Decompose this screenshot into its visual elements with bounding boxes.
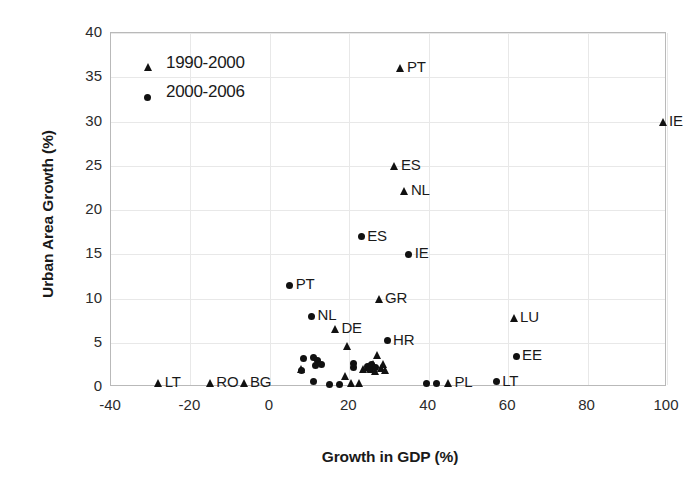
data-point-triangle bbox=[375, 295, 383, 303]
data-point-circle bbox=[336, 381, 343, 388]
x-axis-title: Growth in GDP (%) bbox=[110, 448, 670, 466]
data-point-label: GR bbox=[385, 289, 407, 306]
data-point-circle bbox=[300, 355, 307, 362]
x-tick-label: -20 bbox=[159, 396, 219, 413]
x-tick-label: 60 bbox=[477, 396, 537, 413]
data-point-circle bbox=[326, 381, 333, 388]
data-point-label: IE bbox=[415, 244, 429, 261]
data-point-label: LU bbox=[520, 308, 539, 325]
data-point-circle bbox=[308, 313, 315, 320]
data-point-triangle bbox=[510, 314, 518, 322]
data-point-label: IE bbox=[669, 112, 683, 129]
data-point-label: NL bbox=[318, 306, 337, 323]
data-point-label: NL bbox=[411, 181, 430, 198]
data-point-label: BG bbox=[250, 373, 271, 390]
data-point-circle bbox=[310, 378, 317, 385]
data-point-label: LT bbox=[165, 373, 181, 390]
data-point-triangle bbox=[206, 379, 214, 387]
data-point-label: ES bbox=[401, 156, 421, 173]
data-point-triangle bbox=[240, 379, 248, 387]
data-point-label: EE bbox=[522, 346, 542, 363]
data-point-label: PT bbox=[296, 275, 315, 292]
data-point-triangle bbox=[390, 162, 398, 170]
data-point-triangle bbox=[347, 379, 355, 387]
x-tick-label: 80 bbox=[557, 396, 617, 413]
data-point-circle bbox=[493, 378, 500, 385]
y-tick-label: 20 bbox=[58, 200, 102, 217]
data-point-triangle bbox=[343, 342, 351, 350]
data-point-circle bbox=[423, 380, 430, 387]
gridline-horizontal bbox=[111, 254, 665, 255]
y-tick-label: 30 bbox=[58, 112, 102, 129]
gridline-horizontal bbox=[111, 210, 665, 211]
data-point-triangle bbox=[373, 351, 381, 359]
data-point-triangle bbox=[381, 366, 389, 374]
gridline-vertical bbox=[508, 33, 509, 385]
y-tick-label: 25 bbox=[58, 156, 102, 173]
y-axis-title: Urban Area Growth (%) bbox=[39, 49, 57, 379]
gridline-vertical bbox=[429, 33, 430, 385]
data-point-circle bbox=[298, 367, 305, 374]
legend-label: 1990-2000 bbox=[166, 53, 245, 73]
gridline-horizontal bbox=[111, 33, 665, 34]
legend-marker-circle-icon bbox=[144, 94, 151, 101]
x-tick-label: 0 bbox=[239, 396, 299, 413]
x-tick-label: 20 bbox=[318, 396, 378, 413]
data-point-triangle bbox=[659, 118, 667, 126]
gridline-horizontal bbox=[111, 122, 665, 123]
data-point-circle bbox=[350, 364, 357, 371]
data-point-triangle bbox=[444, 379, 452, 387]
data-point-triangle bbox=[154, 379, 162, 387]
legend-label: 2000-2006 bbox=[166, 82, 245, 102]
y-tick-label: 0 bbox=[58, 377, 102, 394]
data-point-triangle bbox=[355, 379, 363, 387]
legend-marker-triangle-icon bbox=[144, 63, 152, 71]
y-tick-label: 35 bbox=[58, 67, 102, 84]
data-point-circle bbox=[372, 364, 379, 371]
gridline-vertical bbox=[588, 33, 589, 385]
data-point-label: PL bbox=[455, 373, 473, 390]
y-tick-label: 5 bbox=[58, 333, 102, 350]
data-point-label: PT bbox=[407, 58, 426, 75]
data-point-circle bbox=[433, 380, 440, 387]
data-point-label: RO bbox=[216, 373, 238, 390]
x-tick-label: -40 bbox=[80, 396, 140, 413]
gridline-horizontal bbox=[111, 77, 665, 78]
gridline-horizontal bbox=[111, 166, 665, 167]
gridline-vertical bbox=[667, 33, 668, 385]
plot-area: LTROBGDEGRESNLPTPLLUIEPTNLESHRIELTEE 199… bbox=[110, 32, 666, 386]
data-point-triangle bbox=[400, 187, 408, 195]
data-point-circle bbox=[286, 282, 293, 289]
data-point-circle bbox=[318, 361, 325, 368]
data-point-circle bbox=[513, 353, 520, 360]
data-point-label: LT bbox=[502, 372, 518, 389]
y-tick-label: 15 bbox=[58, 244, 102, 261]
y-tick-label: 40 bbox=[58, 23, 102, 40]
x-tick-label: 100 bbox=[636, 396, 687, 413]
data-point-triangle bbox=[331, 325, 339, 333]
data-point-circle bbox=[358, 233, 365, 240]
data-point-label: HR bbox=[393, 331, 414, 348]
x-tick-label: 40 bbox=[398, 396, 458, 413]
data-point-label: ES bbox=[367, 227, 387, 244]
data-point-triangle bbox=[396, 64, 404, 72]
gridline-vertical bbox=[270, 33, 271, 385]
y-tick-label: 10 bbox=[58, 289, 102, 306]
data-point-label: DE bbox=[341, 319, 361, 336]
data-point-circle bbox=[405, 251, 412, 258]
